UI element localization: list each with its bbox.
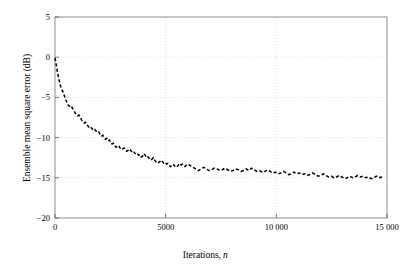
y-tick-label: 0 [46,52,50,62]
y-axis-tick-labels: 50−5−10−15−20 [37,12,50,223]
y-tick-label: −20 [37,213,50,223]
x-axis-tick-labels: 0500010 00015 000 [53,222,399,232]
y-tick-label: −5 [41,92,50,102]
y-tick-label: 5 [46,12,50,22]
y-tick-label: −10 [37,133,50,143]
x-axis-title-variable: n [223,250,228,260]
y-axis-title: Ensemble mean square error (dB) [22,54,33,182]
x-tick-label: 15 000 [375,222,398,232]
x-axis-title: Iterations, [183,250,221,260]
x-tick-label: 10 000 [265,222,288,232]
x-tick-label: 0 [53,222,57,232]
chart-figure: 50−5−10−15−20 0500010 00015 000 Iteratio… [0,0,418,274]
mse-convergence-chart: 50−5−10−15−20 0500010 00015 000 Iteratio… [0,0,418,274]
plot-background [55,17,387,218]
x-tick-label: 5000 [157,222,174,232]
y-tick-label: −15 [37,173,50,183]
